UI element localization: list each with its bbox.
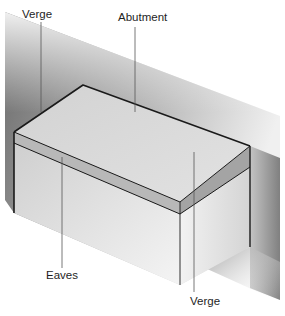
- roof-diagram: Verge Abutment Eaves Verge: [0, 0, 285, 316]
- label-eaves: Eaves: [46, 270, 78, 282]
- label-verge-bottom: Verge: [190, 296, 220, 308]
- label-abutment: Abutment: [118, 12, 167, 24]
- label-verge-top: Verge: [22, 9, 52, 21]
- roof-diagram-graphic: [0, 0, 285, 316]
